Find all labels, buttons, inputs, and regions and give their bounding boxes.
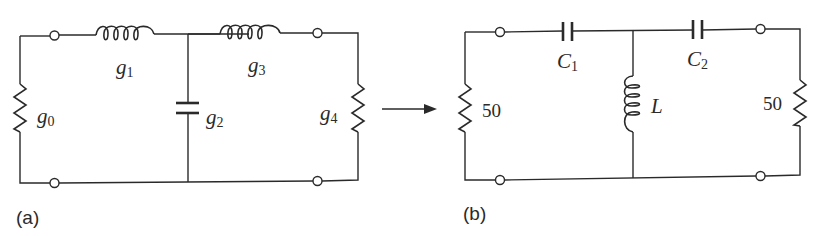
label-c2: C2 xyxy=(687,47,708,72)
label-g3: g3 xyxy=(248,53,266,78)
terminal xyxy=(756,172,765,181)
label-resistor-right: 50 xyxy=(763,93,782,114)
wire xyxy=(322,33,358,84)
panel-a-lowpass-prototype: g0 g1 g2 g3 g4 (a) xyxy=(14,25,364,228)
inductor-g3-icon xyxy=(220,25,280,39)
label-g2: g2 xyxy=(206,105,224,130)
wire xyxy=(465,132,496,180)
inductor-g1-icon xyxy=(96,26,154,40)
label-resistor-left: 50 xyxy=(482,100,501,121)
wire xyxy=(59,181,313,183)
terminal xyxy=(496,176,505,185)
caption-a: (a) xyxy=(16,207,39,228)
label-c1: C1 xyxy=(557,49,578,74)
terminal xyxy=(756,25,765,34)
terminal xyxy=(496,28,505,37)
label-l: L xyxy=(650,94,663,118)
wire xyxy=(702,29,756,30)
resistor-g0-icon xyxy=(14,84,26,132)
wire xyxy=(765,29,800,80)
terminal xyxy=(50,31,59,40)
label-g4: g4 xyxy=(320,101,338,126)
circuit-figure: g0 g1 g2 g3 g4 (a) xyxy=(0,0,818,236)
label-g1: g1 xyxy=(116,55,134,80)
caption-b: (b) xyxy=(463,203,486,224)
panel-b-highpass-filter: 50 C1 L C2 50 (b) xyxy=(459,20,806,224)
terminal xyxy=(313,29,322,38)
label-g0: g0 xyxy=(37,104,55,129)
resistor-g4-icon xyxy=(352,84,364,132)
wire xyxy=(20,132,50,183)
terminal xyxy=(313,177,322,186)
wire xyxy=(765,126,800,176)
wire xyxy=(505,31,563,32)
transform-arrow-icon xyxy=(382,104,437,114)
resistor-50-right-icon xyxy=(794,80,806,126)
wire xyxy=(322,132,358,181)
terminal xyxy=(50,179,59,188)
inductor-l-icon xyxy=(625,76,640,132)
resistor-50-left-icon xyxy=(459,84,471,132)
wire xyxy=(505,176,756,180)
